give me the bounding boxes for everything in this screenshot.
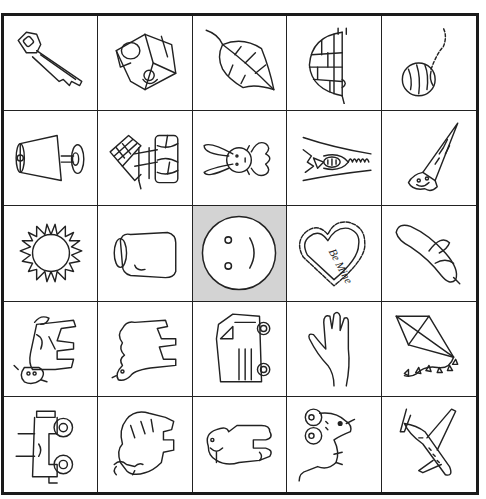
cell-heart[interactable]: valentine heart Be Mine [287,206,381,301]
key-icon [10,22,92,104]
cow-icon [10,308,92,390]
yak-icon [104,403,186,485]
cell-jet[interactable]: jet [382,397,476,492]
cell-hand[interactable]: hand [287,302,381,397]
cell-mouse[interactable]: mouse [287,397,381,492]
cell-banana[interactable]: banana [382,206,476,301]
cell-saw[interactable]: saw [382,111,476,206]
sun-icon [10,212,92,294]
kite-icon [388,308,470,390]
camel-icon [104,308,186,390]
cell-lamp[interactable]: lamp [4,111,98,206]
banana-icon [388,212,470,294]
zipper-icon [293,117,375,199]
cell-van[interactable]: van [193,302,287,397]
cell-jeep[interactable]: jeep [4,397,98,492]
cell-walrus[interactable]: walrus [193,397,287,492]
jet-icon [388,403,470,485]
picture-bingo-board: key milk carton leaf igloo [1,13,479,495]
mouse-icon [293,403,375,485]
smiley-face-icon [196,210,282,296]
van-icon [198,308,280,390]
cell-leaf[interactable]: leaf [193,16,287,111]
igloo-icon [293,22,375,104]
hand-icon [293,308,375,390]
wishing-well-icon [104,117,186,199]
cell-yak[interactable]: yak [98,397,192,492]
cell-igloo[interactable]: igloo [287,16,381,111]
milk-carton-icon [104,22,186,104]
cell-well[interactable]: well [98,111,192,206]
heart-icon: Be Mine [293,212,375,294]
cell-yarn[interactable]: yarn [382,16,476,111]
cell-milk-carton[interactable]: milk carton [98,16,192,111]
cell-rabbit[interactable]: rabbit [193,111,287,206]
cell-free-space[interactable]: smiley face (free) [193,206,287,301]
cell-cow[interactable]: cow [4,302,98,397]
cell-zipper[interactable]: zipper [287,111,381,206]
saw-icon [388,117,470,199]
cell-key[interactable]: key [4,16,98,111]
lamp-icon [10,117,92,199]
jar-icon [104,212,186,294]
cell-jar[interactable]: jar [98,206,192,301]
yarn-ball-icon [388,22,470,104]
walrus-icon [198,403,280,485]
cell-kite[interactable]: kite [382,302,476,397]
cell-sun[interactable]: sun [4,206,98,301]
cell-camel[interactable]: camel [98,302,192,397]
leaf-icon [198,22,280,104]
rabbit-icon [198,117,280,199]
jeep-icon [10,403,92,485]
